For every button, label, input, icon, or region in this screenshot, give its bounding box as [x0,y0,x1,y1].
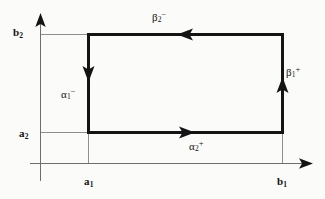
figure-canvas: b2 a2 a1 b1 β2− β1+ α1− α2+ [0,0,325,199]
edge-label-beta2-minus: β2− [152,10,166,24]
axis-label-b1: b1 [277,176,287,188]
axis-label-a1: a1 [84,176,93,188]
diagram-svg [0,0,325,199]
axis-label-b2: b2 [13,27,23,39]
edge-label-alpha1-minus: α1− [61,87,76,101]
axis-label-a2: a2 [19,128,28,140]
edge-label-alpha2-plus: α2+ [189,139,204,153]
edge-label-beta1-plus: β1+ [286,65,300,79]
